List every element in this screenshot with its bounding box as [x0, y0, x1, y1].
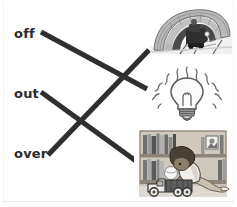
light-bulb-picture[interactable]: [152, 62, 222, 124]
train-in-tunnel-picture[interactable]: [150, 6, 232, 54]
connector-off-to-bulb[interactable]: [41, 32, 147, 89]
child-with-toy-truck-picture[interactable]: [134, 128, 232, 198]
matching-worksheet: off out over: [0, 0, 237, 207]
